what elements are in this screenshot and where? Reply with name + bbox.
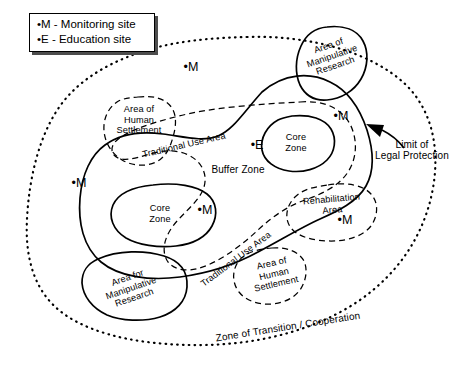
label-buffer-zone: Buffer Zone	[200, 165, 276, 176]
legend-row-education: •E - Education site	[37, 32, 147, 47]
monitoring-site-marker-3: •M	[66, 178, 92, 189]
label-area-of-human-settlement-upper: Area of Human Settlement	[104, 104, 174, 136]
education-site-marker-1: •E	[245, 140, 269, 151]
label-core-zone-left: Core Zone	[130, 203, 190, 224]
label-limit-of-legal-protection: Limit of Legal Protection	[372, 140, 452, 161]
legend-row-monitoring: •M - Monitoring site	[37, 17, 147, 32]
monitoring-site-marker-2: •M	[328, 111, 354, 122]
monitoring-site-marker-4: •M	[192, 205, 218, 216]
monitoring-site-marker-5: •M	[332, 215, 358, 226]
biosphere-reserve-zonation-diagram: •M - Monitoring site •E - Education site…	[0, 0, 452, 365]
site-legend: •M - Monitoring site •E - Education site	[29, 13, 155, 52]
label-core-zone-right: Core Zone	[266, 132, 326, 153]
monitoring-site-marker-1: •M	[178, 62, 204, 73]
